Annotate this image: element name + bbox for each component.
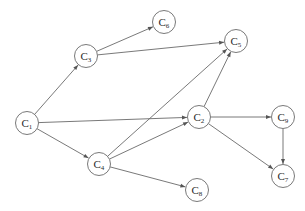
node-c7: C7 (272, 165, 295, 188)
node-c1: C1 (16, 112, 39, 135)
edges-layer (35, 27, 283, 187)
node-c6: C6 (153, 11, 176, 34)
node-label: C (278, 170, 285, 182)
node-c5: C5 (225, 30, 248, 53)
node-c9: C9 (272, 106, 295, 129)
node-label: C (22, 117, 29, 129)
node-subscript: 6 (166, 22, 170, 30)
node-subscript: 7 (285, 176, 289, 184)
node-label: C (81, 50, 88, 62)
edge-c1-to-c3 (35, 65, 79, 114)
node-label: C (231, 35, 238, 47)
nodes-layer: C1C2C3C4C5C6C7C8C9 (16, 11, 295, 202)
node-label: C (194, 111, 201, 123)
node-subscript: 5 (238, 41, 242, 49)
edge-c1-to-c4 (37, 129, 89, 158)
node-label: C (192, 184, 199, 196)
node-label: C (278, 111, 285, 123)
directed-graph-diagram: C1C2C3C4C5C6C7C8C9 (0, 0, 305, 211)
node-subscript: 3 (88, 56, 92, 64)
node-label: C (159, 16, 166, 28)
node-c4: C4 (88, 153, 111, 176)
edge-c3-to-c6 (97, 27, 154, 52)
edge-c4-to-c5 (108, 49, 228, 156)
node-subscript: 4 (101, 164, 105, 172)
edge-c1-to-c2 (39, 117, 188, 122)
node-subscript: 8 (199, 190, 203, 198)
edge-c4-to-c8 (110, 167, 185, 187)
edge-c2-to-c5 (204, 52, 231, 107)
node-subscript: 2 (201, 117, 205, 125)
edge-c2-to-c7 (208, 124, 273, 170)
node-c3: C3 (75, 45, 98, 68)
edge-c3-to-c5 (97, 42, 224, 55)
node-c2: C2 (188, 106, 211, 129)
node-c8: C8 (186, 179, 209, 202)
node-subscript: 9 (285, 117, 289, 125)
edge-c4-to-c2 (109, 122, 188, 159)
node-subscript: 1 (29, 123, 33, 131)
node-label: C (94, 158, 101, 170)
